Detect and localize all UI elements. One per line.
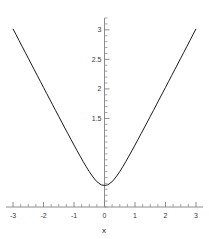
x-tick-label: 0 bbox=[103, 212, 107, 219]
x-axis-tick-labels: -3-2-10123 bbox=[10, 212, 198, 219]
y-tick-label: 2.5 bbox=[92, 56, 102, 63]
x-tick-label: 1 bbox=[133, 212, 137, 219]
plot-figure: -3-2-10123 1.522.53 x bbox=[0, 0, 209, 239]
x-tick-label: 2 bbox=[164, 212, 168, 219]
x-tick-label: 3 bbox=[194, 212, 198, 219]
y-tick-label: 3 bbox=[98, 26, 102, 33]
y-axis-major-ticks bbox=[105, 30, 110, 119]
x-axis-title: x bbox=[102, 226, 106, 235]
y-tick-label: 2 bbox=[98, 85, 102, 92]
plot-canvas: -3-2-10123 1.522.53 x bbox=[0, 0, 209, 239]
x-tick-label: -3 bbox=[10, 212, 16, 219]
y-axis-tick-labels: 1.522.53 bbox=[92, 26, 102, 122]
y-tick-label: 1.5 bbox=[92, 115, 102, 122]
x-tick-label: -1 bbox=[71, 212, 77, 219]
x-tick-label: -2 bbox=[40, 212, 46, 219]
